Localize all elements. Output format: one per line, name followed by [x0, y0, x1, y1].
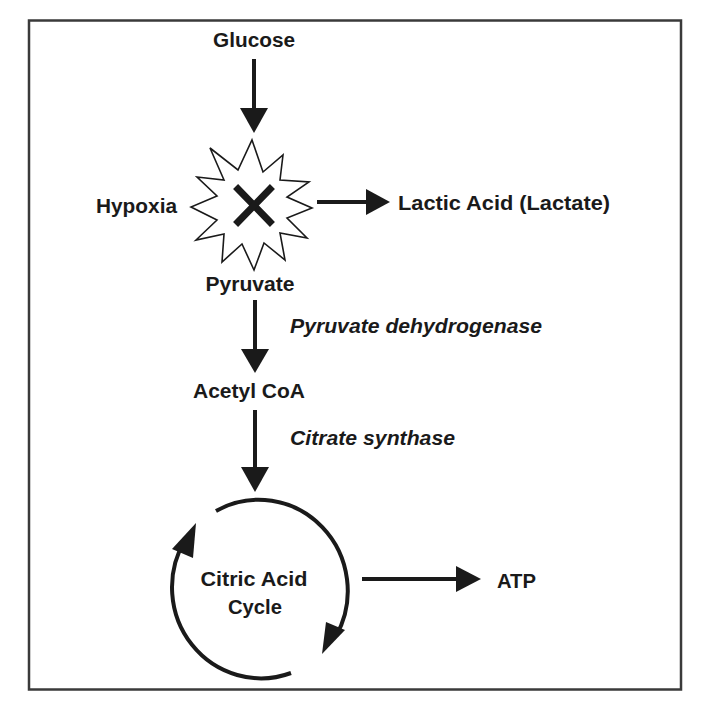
cycle-arrowhead-left	[172, 523, 196, 558]
node-citric-acid-cycle-line1: Citric Acid	[201, 568, 308, 590]
metabolism-diagram: Glucose Hypoxia Lactic Acid (Lactate) Py…	[0, 0, 701, 712]
node-hypoxia: Hypoxia	[96, 195, 178, 217]
arrow-cycle-to-atp	[362, 566, 481, 592]
arrow-acetyl-coa-to-cycle	[241, 410, 269, 492]
node-acetyl-coa: Acetyl CoA	[193, 380, 305, 402]
enzyme-citrate-synthase: Citrate synthase	[290, 427, 455, 449]
arrow-to-lactic-acid	[317, 189, 390, 215]
diagram-frame	[29, 21, 681, 690]
node-lactic-acid: Lactic Acid (Lactate)	[398, 192, 610, 214]
enzyme-pyruvate-dehydrogenase: Pyruvate dehydrogenase	[290, 315, 542, 337]
node-glucose: Glucose	[213, 29, 295, 51]
node-atp: ATP	[497, 570, 536, 592]
node-citric-acid-cycle-line2: Cycle	[228, 596, 282, 618]
arrow-pyruvate-to-acetyl-coa	[241, 300, 269, 373]
arrow-glucose-to-pyruvate	[240, 59, 268, 133]
hypoxia-block-starburst	[191, 140, 312, 270]
node-pyruvate: Pyruvate	[206, 273, 295, 295]
